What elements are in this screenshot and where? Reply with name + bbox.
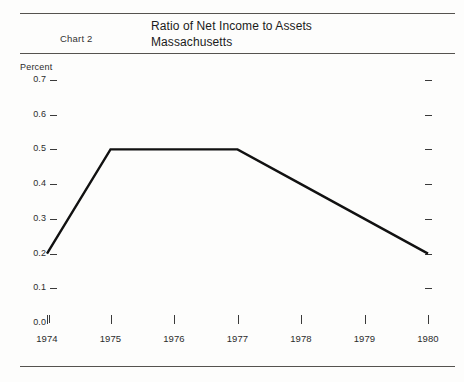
plot-area: Percent 0.70.60.50.40.30.20.10.0 1974197…	[0, 0, 464, 382]
chart-page: Chart 2 Ratio of Net Income to Assets Ma…	[0, 0, 464, 382]
data-series-line	[0, 0, 464, 382]
